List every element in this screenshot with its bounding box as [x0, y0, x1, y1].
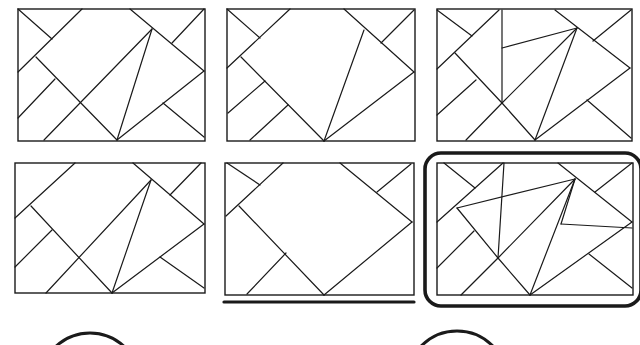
circle-right	[407, 331, 507, 345]
panel-line	[160, 257, 204, 288]
panel-border	[437, 9, 632, 141]
panel-line	[437, 10, 499, 69]
panel-line	[324, 222, 412, 295]
panel-border	[437, 163, 633, 295]
panel-line	[502, 103, 535, 140]
panel-line	[163, 103, 204, 137]
panel-line	[324, 30, 364, 141]
panel-line	[117, 71, 204, 140]
panel-line	[444, 163, 475, 188]
panel-line	[437, 10, 472, 36]
panel-line	[15, 230, 52, 267]
panel-border	[227, 9, 415, 141]
panel-line	[595, 163, 632, 192]
panel-line	[247, 253, 286, 294]
panel-line	[461, 258, 498, 295]
panel-line	[455, 53, 502, 103]
panel-3	[437, 9, 632, 141]
selection-frame	[425, 153, 640, 306]
panel-line	[117, 29, 152, 140]
panel-line	[227, 9, 260, 38]
panel-line	[535, 68, 630, 140]
panel-line	[44, 29, 152, 140]
panel-line	[227, 163, 260, 185]
panel-line	[36, 57, 117, 140]
panel-line	[535, 28, 577, 140]
panel-line	[457, 208, 498, 258]
panel-border	[225, 163, 414, 295]
panel-line	[31, 206, 112, 293]
panel-line	[530, 222, 632, 295]
panel-line	[498, 258, 530, 295]
panel-line	[239, 206, 324, 295]
panel-line	[437, 163, 503, 222]
figure-canvas	[0, 0, 640, 345]
panel-6	[425, 153, 640, 306]
panel-line	[502, 28, 577, 48]
panel-line	[18, 9, 52, 39]
panel-line	[226, 163, 283, 216]
panel-line	[457, 179, 575, 208]
panel-line	[381, 10, 414, 43]
panel-line	[112, 224, 204, 293]
panel-line	[15, 163, 75, 218]
decor-layer	[40, 331, 507, 345]
panel-5	[224, 163, 414, 302]
panel-line	[344, 9, 414, 72]
panel-line	[589, 254, 632, 288]
panel-line	[228, 81, 265, 113]
panel-line	[172, 9, 204, 43]
panel-line	[324, 72, 414, 141]
panel-line	[170, 163, 201, 195]
panel-line	[502, 28, 577, 103]
panel-line	[437, 80, 476, 115]
panel-line	[133, 163, 204, 224]
panel-4	[15, 163, 205, 293]
panel-line	[466, 103, 502, 140]
panel-line	[587, 100, 631, 138]
panel-line	[18, 79, 55, 118]
panel-border	[18, 9, 205, 141]
panel-line	[437, 231, 474, 268]
panels-layer	[15, 9, 640, 306]
panel-line	[593, 10, 631, 41]
panel-line	[250, 105, 288, 140]
panel-line	[18, 9, 82, 72]
circle-left	[40, 333, 140, 345]
panel-line	[561, 224, 632, 228]
panel-line	[530, 179, 575, 295]
panel-2	[227, 9, 415, 141]
panel-line	[112, 180, 151, 293]
panel-line	[498, 179, 575, 258]
panel-1	[18, 9, 205, 141]
panel-line	[241, 57, 324, 141]
panel-line	[498, 163, 504, 258]
panel-border	[15, 163, 205, 293]
panel-line	[377, 164, 411, 192]
